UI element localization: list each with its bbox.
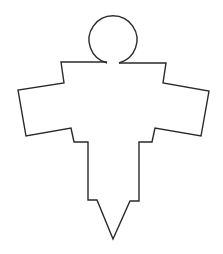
body-outline [18, 62, 209, 239]
diagram-canvas [0, 0, 223, 254]
tangram-figure [0, 0, 223, 254]
head-circle [89, 16, 137, 63]
